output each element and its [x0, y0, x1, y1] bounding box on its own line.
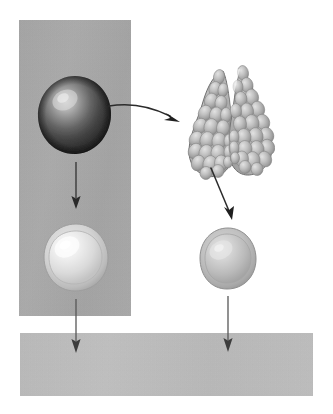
dark-cell-figure — [36, 74, 114, 156]
bottom-horizontal-bar-panel — [20, 333, 313, 396]
arrow-dark-cell-to-gland — [106, 96, 188, 130]
diagram-canvas — [0, 0, 333, 414]
arrow-gland-to-right-cell — [206, 165, 246, 227]
pale-cell-right-figure — [197, 226, 259, 292]
pale-cell-left-figure — [41, 222, 111, 294]
arrow-pale-cell-left-down — [69, 297, 83, 357]
gland-lobule-cluster-left — [186, 69, 234, 181]
arrow-dark-cell-down — [69, 160, 83, 212]
arrow-pale-cell-right-down — [221, 294, 235, 356]
